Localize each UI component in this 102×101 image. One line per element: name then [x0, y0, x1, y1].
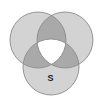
- region-label-s: S: [47, 73, 53, 83]
- venn-diagram: S: [0, 0, 102, 101]
